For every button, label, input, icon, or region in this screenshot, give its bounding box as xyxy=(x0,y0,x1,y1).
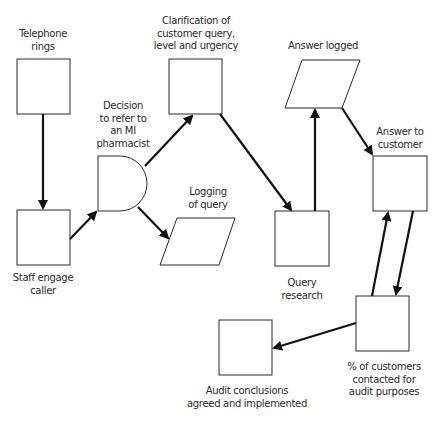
arrow-percent-to-customer xyxy=(372,213,388,296)
node-answer-to-customer xyxy=(373,156,427,211)
label-query-research: Query research xyxy=(267,277,337,302)
node-query-research xyxy=(275,211,329,266)
arrow-staff-to-decision xyxy=(70,212,96,239)
node-telephone-rings xyxy=(17,59,70,114)
node-audit-conclusions xyxy=(219,320,272,375)
label-telephone-rings: Telephone rings xyxy=(3,28,83,53)
label-answer-to-customer: Answer to customer xyxy=(365,126,435,151)
label-answer-logged: Answer logged xyxy=(280,40,366,53)
label-decision: Decision to refer to an MI pharmacist xyxy=(88,100,158,150)
arrow-customer-to-percent xyxy=(396,211,413,294)
label-staff-engage-caller: Staff engage caller xyxy=(3,272,83,297)
node-staff-engage-caller xyxy=(17,210,70,265)
label-audit-conclusions: Audit conclusions agreed and implemented xyxy=(186,385,308,410)
arrow-percent-to-audit xyxy=(274,323,356,348)
node-percent-customers xyxy=(356,296,409,351)
arrow-decision-to-logging xyxy=(138,207,168,238)
label-percent-customers: % of customers contacted for audit purpo… xyxy=(340,361,428,399)
node-clarification xyxy=(169,59,222,114)
node-decision-delay xyxy=(98,156,147,211)
node-logging-of-query xyxy=(160,218,235,265)
label-clarification: Clarification of customer query, level a… xyxy=(148,15,244,53)
label-logging-of-query: Logging of query xyxy=(178,186,238,211)
node-answer-logged xyxy=(285,60,360,108)
